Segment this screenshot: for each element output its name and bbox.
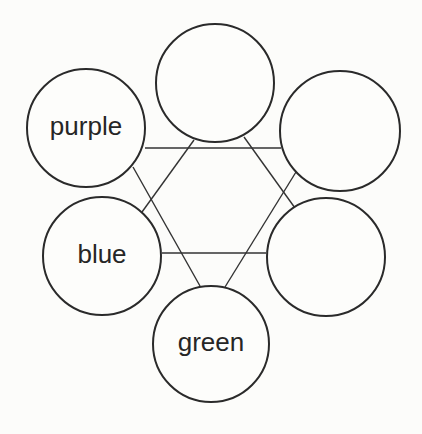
- node-green: green: [153, 286, 269, 402]
- node-circle: [280, 71, 400, 191]
- node-top: [156, 24, 274, 142]
- node-label: green: [178, 327, 245, 357]
- node-bottom-right: [267, 198, 385, 316]
- hexagon-diagram: purplebluegreen: [0, 0, 422, 434]
- nodes: purplebluegreen: [27, 24, 400, 402]
- node-label: purple: [50, 111, 122, 141]
- node-blue: blue: [43, 197, 161, 315]
- edge-top-blue: [142, 140, 194, 212]
- node-top-right: [280, 71, 400, 191]
- node-circle: [267, 198, 385, 316]
- node-circle: [156, 24, 274, 142]
- node-label: blue: [77, 239, 126, 269]
- node-purple: purple: [27, 69, 145, 187]
